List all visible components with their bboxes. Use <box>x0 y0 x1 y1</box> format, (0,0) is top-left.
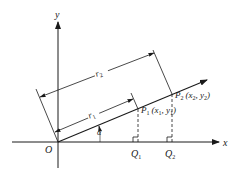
y-axis-label: y <box>54 9 60 20</box>
origin-label: O <box>45 144 52 155</box>
coordinate-diagram: y x O α r2 r1 P2(x2, y2) P1(x1, y1) Q1 Q… <box>0 0 239 170</box>
extension-line-p1 <box>131 93 138 109</box>
r2-label: r2 <box>93 66 109 80</box>
q2-label: Q2 <box>165 148 175 160</box>
right-angle-q2 <box>167 137 172 142</box>
angle-alpha-label: α <box>97 128 102 137</box>
p2-label: P2(x2, y2) <box>174 90 210 101</box>
extension-line-p2 <box>153 50 172 94</box>
x-axis-label: x <box>222 137 228 148</box>
r1-label: r1 <box>86 108 101 122</box>
right-angle-q1 <box>133 137 138 142</box>
p1-label: P1(x1, y1) <box>140 105 176 116</box>
extension-line-origin <box>36 89 58 142</box>
q1-label: Q1 <box>131 148 141 160</box>
